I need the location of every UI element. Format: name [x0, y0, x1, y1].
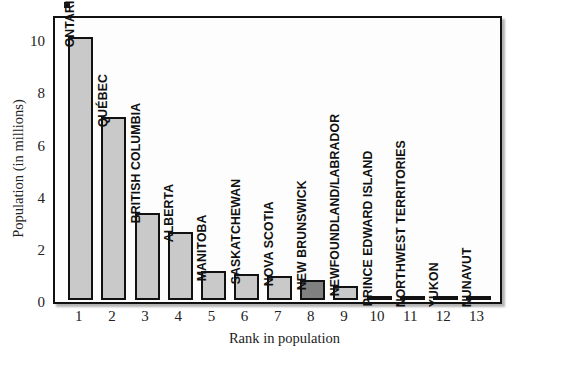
bar [168, 232, 193, 300]
bar-chart-figure: Population (in millions) 0246810 ONTARIO… [0, 0, 569, 365]
bar [135, 213, 160, 300]
x-tick-label: 5 [208, 308, 216, 325]
bar-category-label: BRITISH COLUMBIA [130, 102, 142, 222]
bar-category-label: NUNAVUT [461, 247, 473, 307]
x-tick-label: 3 [141, 308, 149, 325]
y-tick-label: 6 [38, 137, 46, 154]
x-tick-label: 11 [403, 308, 417, 325]
x-tick-label: 9 [340, 308, 348, 325]
bar-category-label: NOVA SCOTIA [262, 201, 274, 286]
bar [101, 117, 126, 300]
bar-category-label: NORTHWEST TERRITORIES [395, 140, 407, 307]
plot-area: ONTARIOQUÉBECBRITISH COLUMBIAALBERTAMANI… [55, 18, 500, 302]
bar-category-label: YUKON [428, 262, 440, 307]
x-tick-label: 8 [307, 308, 315, 325]
y-tick-label: 0 [38, 294, 46, 311]
x-tick-label: 4 [175, 308, 183, 325]
x-tick-label: 12 [436, 308, 451, 325]
bar-category-label: MANITOBA [196, 214, 208, 281]
bar [68, 37, 93, 300]
x-tick-label: 13 [469, 308, 484, 325]
x-tick-label: 1 [75, 308, 83, 325]
bar-category-label: NEWFOUNDLAND/LABRADOR [329, 114, 341, 296]
bar-category-label: SASKATCHEWAN [229, 179, 241, 285]
y-tick-label: 10 [30, 33, 45, 50]
bar-category-label: PRINCE EDWARD ISLAND [362, 151, 374, 307]
y-tick-label: 2 [38, 241, 46, 258]
x-tick-label: 10 [370, 308, 385, 325]
y-tick-label: 4 [38, 189, 46, 206]
y-axis: Population (in millions) 0246810 [0, 0, 53, 365]
bar-category-label: NEW BRUNSWICK [296, 181, 308, 291]
plot-frame: ONTARIOQUÉBECBRITISH COLUMBIAALBERTAMANI… [53, 16, 502, 304]
y-axis-title: Population (in millions) [10, 69, 27, 269]
bar-category-label: ONTARIO [64, 0, 76, 47]
x-tick-label: 2 [108, 308, 116, 325]
x-tick-label: 6 [241, 308, 249, 325]
x-tick-label: 7 [274, 308, 282, 325]
bar-category-label: ALBERTA [163, 184, 175, 243]
x-axis-title: Rank in population [0, 330, 569, 347]
y-tick-label: 8 [38, 85, 46, 102]
bar-category-label: QUÉBEC [97, 74, 109, 127]
